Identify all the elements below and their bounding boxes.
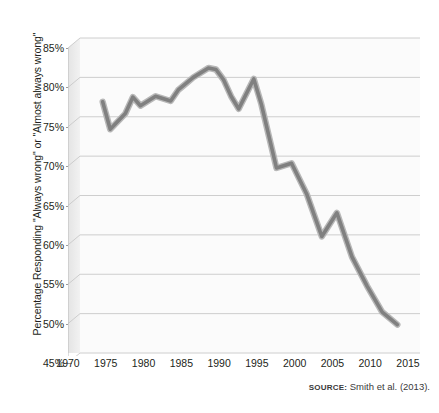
plot-area <box>68 28 420 356</box>
y-tick-label: 85% <box>30 42 64 54</box>
chart-figure: Percentage Responding "Always wrong" or … <box>0 0 439 413</box>
cropped-title-fragment <box>60 0 430 8</box>
y-tick-label: 50% <box>30 318 64 330</box>
x-tick-label: 2010 <box>349 357 391 369</box>
x-tick-label: 1970 <box>47 357 89 369</box>
x-tick-label: 2000 <box>274 357 316 369</box>
x-tick-label: 2015 <box>387 357 429 369</box>
y-tick-label: 55% <box>30 278 64 290</box>
y-tick-label: 60% <box>30 239 64 251</box>
y-tick-label: 65% <box>30 200 64 212</box>
y-tick-label: 70% <box>30 160 64 172</box>
x-tick-label: 1990 <box>198 357 240 369</box>
x-tick-label: 2005 <box>311 357 353 369</box>
x-tick-label: 1975 <box>85 357 127 369</box>
x-tick-label: 1985 <box>160 357 202 369</box>
source-citation: Smith et al. (2013). <box>350 381 430 392</box>
source-label: SOURCE: <box>309 383 347 392</box>
y-axis-tick-labels: 45%50%55%60%65%70%75%80%85% <box>28 0 64 413</box>
x-tick-label: 1980 <box>123 357 165 369</box>
x-tick-label: 1995 <box>236 357 278 369</box>
source-note: SOURCE: Smith et al. (2013). <box>0 381 430 392</box>
y-tick-label: 80% <box>30 81 64 93</box>
chart-canvas <box>68 28 420 356</box>
y-tick-label: 75% <box>30 121 64 133</box>
